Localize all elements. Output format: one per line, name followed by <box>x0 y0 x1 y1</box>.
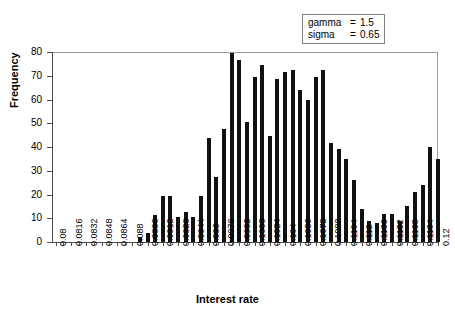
x-tick <box>63 242 64 246</box>
y-tick-label-50: 50 <box>12 118 42 128</box>
x-tick <box>354 242 355 246</box>
bar <box>230 53 234 242</box>
x-tick <box>132 242 133 246</box>
x-tick <box>239 242 240 246</box>
x-tick <box>300 242 301 246</box>
x-tick <box>109 242 110 246</box>
x-tick <box>201 242 202 246</box>
x-tick <box>178 242 179 246</box>
x-tick <box>377 242 378 246</box>
x-tick <box>155 242 156 246</box>
x-tick <box>400 242 401 246</box>
x-tick <box>293 242 294 246</box>
x-tick <box>79 242 80 246</box>
x-tick <box>407 242 408 246</box>
x-tick <box>193 242 194 246</box>
legend-equals-sigma: = <box>350 29 360 41</box>
x-tick <box>117 242 118 246</box>
x-tick <box>323 242 324 246</box>
bar <box>321 70 325 242</box>
bar <box>298 90 302 242</box>
x-tick <box>331 242 332 246</box>
x-tick <box>423 242 424 246</box>
x-tick <box>71 242 72 246</box>
x-tick <box>285 242 286 246</box>
x-tick <box>86 242 87 246</box>
x-tick <box>186 242 187 246</box>
bar <box>283 72 287 242</box>
x-tick <box>415 242 416 246</box>
legend-equals-gamma: = <box>350 17 360 29</box>
legend-value-sigma: 0.65 <box>360 29 379 41</box>
x-tick <box>346 242 347 246</box>
bar <box>436 159 440 242</box>
legend-value-gamma: 1.5 <box>360 17 374 29</box>
parameter-legend-box: gamma = 1.5 sigma = 0.65 <box>302 14 385 44</box>
bar <box>237 60 241 242</box>
x-axis-title: Interest rate <box>0 293 455 305</box>
x-tick <box>102 242 103 246</box>
legend-row-gamma: gamma = 1.5 <box>308 17 379 29</box>
x-tick <box>262 242 263 246</box>
bar <box>191 217 195 242</box>
x-tick <box>209 242 210 246</box>
bar <box>253 77 257 242</box>
x-tick <box>270 242 271 246</box>
x-tick <box>316 242 317 246</box>
y-axis-title: Frequency <box>8 52 20 108</box>
y-tick-label-10: 10 <box>12 213 42 223</box>
legend-label-gamma: gamma <box>308 17 350 29</box>
x-tick <box>438 242 439 246</box>
y-tick-label-30: 30 <box>12 166 42 176</box>
bar <box>405 206 409 242</box>
x-tick <box>277 242 278 246</box>
legend-row-sigma: sigma = 0.65 <box>308 29 379 41</box>
bar <box>314 77 318 242</box>
legend-label-sigma: sigma <box>308 29 350 41</box>
x-tick <box>384 242 385 246</box>
bar <box>344 159 348 242</box>
x-tick <box>430 242 431 246</box>
x-tick <box>247 242 248 246</box>
y-tick-0 <box>47 242 52 243</box>
x-tick <box>56 242 57 246</box>
x-tick <box>148 242 149 246</box>
x-tick <box>140 242 141 246</box>
histogram-bars <box>52 52 438 242</box>
x-tick <box>339 242 340 246</box>
bar <box>176 217 180 242</box>
x-tick <box>232 242 233 246</box>
x-tick <box>392 242 393 246</box>
x-tick <box>369 242 370 246</box>
x-tick <box>255 242 256 246</box>
y-tick-label-20: 20 <box>12 190 42 200</box>
bar <box>291 70 295 242</box>
x-tick <box>362 242 363 246</box>
x-tick <box>94 242 95 246</box>
x-tick <box>125 242 126 246</box>
x-tick <box>163 242 164 246</box>
bar <box>260 65 264 242</box>
bar <box>390 214 394 243</box>
x-tick <box>170 242 171 246</box>
x-tick-label-0.12: 0.12 <box>442 228 451 246</box>
x-tick <box>308 242 309 246</box>
y-tick-label-40: 40 <box>12 142 42 152</box>
x-tick <box>224 242 225 246</box>
y-tick-label-0: 0 <box>12 237 42 247</box>
histogram-figure: gamma = 1.5 sigma = 0.65 010203040506070… <box>0 0 455 314</box>
x-tick <box>216 242 217 246</box>
